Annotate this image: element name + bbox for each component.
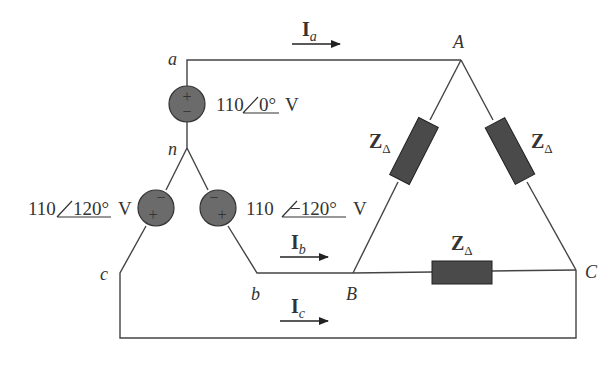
current-label-c: Ic — [291, 295, 306, 321]
voltage-source-a: + − — [169, 86, 205, 122]
plus-sign-icon: + — [148, 206, 157, 223]
svg-text:110: 110 — [246, 198, 274, 219]
impedance-label-CA: ZΔ — [531, 130, 553, 156]
impedance-BC — [432, 261, 492, 284]
current-label-b: Ib — [291, 231, 306, 257]
node-label-B: B — [346, 284, 357, 304]
voltage-source-b: − + — [200, 189, 236, 226]
wire-ZAB-to-B — [353, 182, 398, 273]
svg-text:V: V — [353, 198, 367, 219]
plus-sign-icon: + — [217, 206, 226, 223]
minus-sign-icon: − — [156, 189, 165, 206]
wire-A-to-ZAB — [430, 60, 461, 120]
impedance-CA — [485, 118, 534, 185]
minus-sign-icon: − — [182, 103, 191, 120]
wire-ZBC-to-C — [492, 270, 576, 271]
wire-A-to-ZCA — [461, 60, 493, 120]
svg-text:110: 110 — [216, 94, 244, 115]
source-label-b: 110 −120° V — [246, 198, 367, 219]
impedance-label-BC: ZΔ — [451, 232, 473, 258]
impedance-label-AB: ZΔ — [369, 130, 391, 156]
wire-n-to-source-b — [187, 148, 208, 190]
source-label-a: 110 0° V — [216, 94, 299, 115]
source-label-c: 110 120° V — [28, 198, 132, 219]
node-label-n: n — [168, 139, 177, 159]
svg-text:V: V — [118, 198, 132, 219]
svg-text:120°: 120° — [73, 198, 109, 219]
minus-sign-icon: − — [209, 189, 218, 206]
svg-text:0°: 0° — [259, 94, 276, 115]
node-label-b: b — [251, 284, 260, 304]
svg-text:V: V — [285, 94, 299, 115]
node-label-C: C — [585, 262, 598, 282]
node-label-A: A — [452, 32, 465, 52]
svg-text:110: 110 — [28, 198, 56, 219]
wire-B-to-ZBC — [353, 272, 432, 273]
circuit-diagram: + − − + − + Ia Ib Ic a n c b A B C 110 — [0, 0, 614, 368]
wire-a-to-A — [187, 60, 461, 86]
node-label-a: a — [168, 49, 177, 69]
voltage-source-c: − + — [138, 189, 174, 226]
current-label-a: Ia — [302, 18, 317, 44]
svg-text:−120°: −120° — [290, 198, 337, 219]
impedance-AB — [390, 117, 439, 184]
node-label-c: c — [100, 264, 108, 284]
wire-ZCA-to-C — [527, 182, 576, 270]
wire-source-c-to-c — [120, 226, 576, 338]
